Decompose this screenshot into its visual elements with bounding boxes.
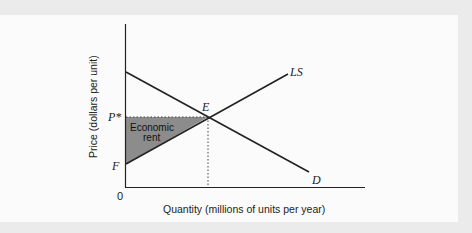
origin-label: 0 [117,190,123,202]
economic-rent-chart: LS D E P* F 0 Economic rent Quantity (mi… [0,0,472,233]
d-label: D [311,173,321,187]
economic-rent-label-line2: rent [143,132,160,143]
y-axis-title: Price (dollars per unit) [87,55,99,158]
p-star-label: P* [107,110,121,124]
f-label: F [111,159,120,173]
e-label: E [201,100,210,114]
x-axis-title: Quantity (millions of units per year) [163,203,325,215]
ls-label: LS [289,65,303,79]
